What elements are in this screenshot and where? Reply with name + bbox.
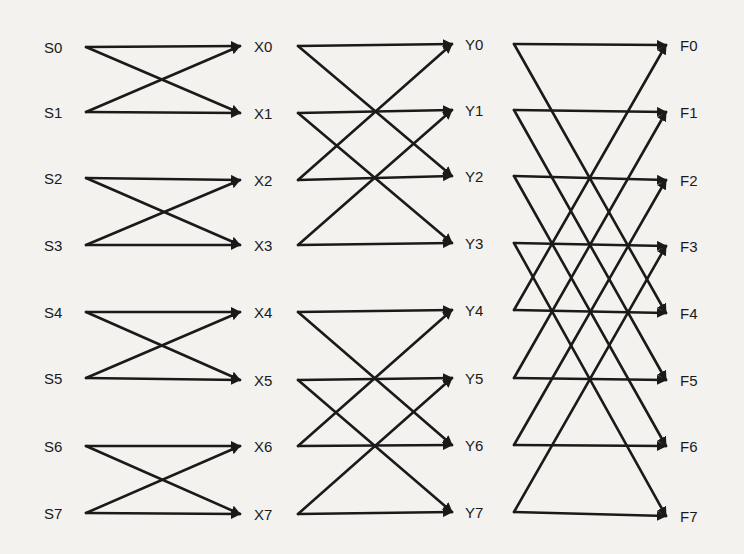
fft-butterfly-diagram: S0S1S2S3S4S5S6S7X0X1X2X3X4X5X6X7Y0Y1Y2Y3…	[0, 0, 744, 554]
node-label-y4: Y4	[465, 303, 483, 318]
node-label-f5: F5	[680, 373, 698, 388]
node-label-f6: F6	[680, 439, 698, 454]
edge-s5-to-x5	[86, 378, 240, 380]
node-label-s6: S6	[44, 439, 62, 454]
node-label-x1: X1	[254, 106, 272, 121]
node-label-x7: X7	[254, 507, 272, 522]
node-label-f3: F3	[680, 239, 698, 254]
node-label-x3: X3	[254, 238, 272, 253]
node-label-s1: S1	[44, 105, 62, 120]
node-label-s5: S5	[44, 371, 62, 386]
node-label-s2: S2	[44, 171, 62, 186]
edge-x3-to-y3	[298, 243, 452, 245]
node-label-y6: Y6	[465, 438, 483, 453]
edge-x0-to-y0	[298, 44, 452, 46]
node-label-f2: F2	[680, 173, 698, 188]
node-label-x0: X0	[254, 39, 272, 54]
node-label-f0: F0	[680, 38, 698, 53]
node-label-f4: F4	[680, 306, 698, 321]
edge-x7-to-y7	[298, 512, 452, 514]
edge-s1-to-x1	[86, 112, 240, 113]
edge-y0-to-f0	[514, 44, 666, 45]
node-label-x2: X2	[254, 173, 272, 188]
node-label-y3: Y3	[465, 236, 483, 251]
node-label-x4: X4	[254, 305, 272, 320]
edge-y1-to-f1	[514, 110, 666, 112]
node-label-y2: Y2	[465, 169, 483, 184]
edge-y7-to-f7	[514, 512, 666, 516]
edge-s7-to-x7	[86, 513, 240, 514]
node-label-f7: F7	[680, 509, 698, 524]
node-label-s7: S7	[44, 506, 62, 521]
edge-s2-to-x2	[86, 178, 240, 180]
node-label-y7: Y7	[465, 505, 483, 520]
node-label-y0: Y0	[465, 37, 483, 52]
edge-y6-to-f6	[514, 445, 666, 446]
node-label-s0: S0	[44, 40, 62, 55]
node-label-f1: F1	[680, 105, 698, 120]
node-label-y1: Y1	[465, 103, 483, 118]
edge-x4-to-y4	[298, 310, 452, 312]
node-label-s4: S4	[44, 305, 62, 320]
node-label-s3: S3	[44, 238, 62, 253]
node-label-y5: Y5	[465, 371, 483, 386]
node-label-x5: X5	[254, 373, 272, 388]
butterfly-wires	[0, 0, 744, 554]
node-label-x6: X6	[254, 439, 272, 454]
edge-s0-to-x0	[86, 46, 240, 47]
